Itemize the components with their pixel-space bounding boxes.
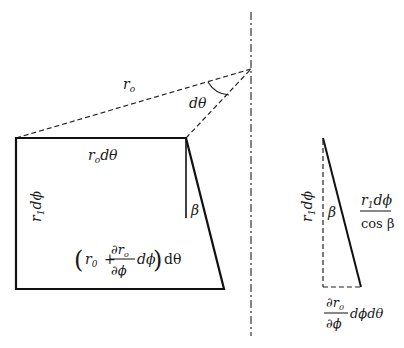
svg-text:dϕdθ: dϕdθ <box>350 306 384 321</box>
svg-text:∂ϕ: ∂ϕ <box>326 316 342 331</box>
svg-text:dθ: dθ <box>164 251 181 267</box>
svg-text:∂ro: ∂ro <box>111 242 129 259</box>
svg-text:cos β: cos β <box>361 216 394 231</box>
label-beta-right: β <box>327 204 336 220</box>
svg-text:(: ( <box>74 246 83 274</box>
label-beta-left: β <box>190 202 199 218</box>
label-hypotenuse-fraction: r1dϕ cos β <box>360 192 394 231</box>
label-bottom-expression: ( r0 + ∂ro ∂ϕ dϕ ) dθ <box>74 242 181 278</box>
svg-text:∂ϕ: ∂ϕ <box>111 263 127 278</box>
trapezoid-geometry-diagram: ro dθ rodθ r1dϕ β ( r0 + ∂ro ∂ϕ dϕ ) dθ … <box>0 0 404 348</box>
label-r-o: ro <box>123 76 136 94</box>
label-dtheta: dθ <box>189 95 207 111</box>
svg-text:∂r0: ∂r0 <box>326 295 344 312</box>
svg-text:r0: r0 <box>85 251 98 269</box>
label-r1-dphi-left: r1dϕ <box>28 191 46 222</box>
dtheta-arc <box>208 82 229 95</box>
label-r1-dphi-right: r1dϕ <box>299 191 317 222</box>
radius-line-left <box>16 69 251 138</box>
svg-text:r1dϕ: r1dϕ <box>361 192 392 210</box>
label-base-expression: ∂r0 ∂ϕ dϕdθ <box>324 295 384 331</box>
label-ro-dtheta: rodθ <box>88 147 118 165</box>
svg-text:): ) <box>153 246 162 274</box>
